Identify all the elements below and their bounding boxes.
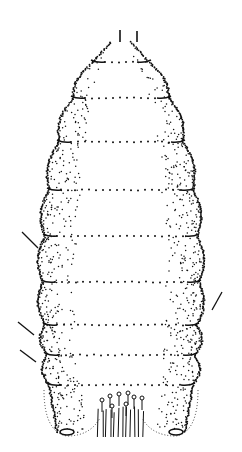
larva-illustration	[0, 0, 242, 452]
larva-drawing	[0, 0, 242, 452]
